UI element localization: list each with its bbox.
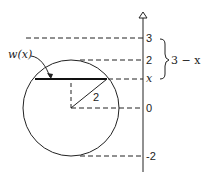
tick-label-neg2: -2 xyxy=(146,150,156,162)
circle-chord-diagram: 2 w(x) 3 2 x 0 -2 3 − x xyxy=(0,0,203,177)
radius-line xyxy=(71,79,107,108)
tick-label-3: 3 xyxy=(146,32,152,44)
brace-label: 3 − x xyxy=(171,54,201,67)
radius-label: 2 xyxy=(93,91,99,103)
curly-brace xyxy=(160,39,169,79)
tick-label-2: 2 xyxy=(146,54,152,66)
axis-arrow-icon xyxy=(139,12,147,18)
tick-label-0: 0 xyxy=(146,102,152,114)
chord-label: w(x) xyxy=(8,48,32,61)
tick-label-x: x xyxy=(146,72,153,85)
